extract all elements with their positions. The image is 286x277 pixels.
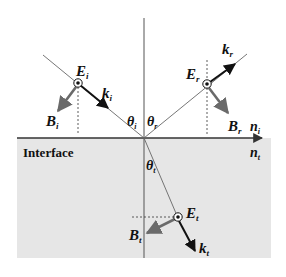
theta-reflected-label: θr — [147, 114, 158, 131]
interface-label: Interface — [23, 145, 74, 160]
e-incident-dot-icon — [74, 79, 82, 87]
e-transmitted-dot-icon — [174, 213, 182, 221]
wave-interface-diagram: Ei ki Bi Er kr Br Et kt Bt θi θr θt ni n… — [0, 0, 286, 277]
e-reflected-label: Er — [185, 66, 200, 84]
k-reflected-label: kr — [222, 41, 234, 59]
n-upper-label: ni — [250, 119, 261, 136]
b-reflected-arrow — [209, 88, 228, 113]
b-reflected-label: Br — [227, 118, 242, 136]
k-reflected-arrow — [210, 64, 235, 82]
k-incident-label: ki — [102, 85, 113, 103]
theta-incident-label: θi — [127, 114, 137, 131]
b-incident-arrow — [58, 87, 76, 111]
e-reflected-dot-icon — [203, 80, 211, 88]
b-incident-label: Bi — [45, 113, 59, 131]
e-incident-label: Ei — [75, 63, 89, 81]
